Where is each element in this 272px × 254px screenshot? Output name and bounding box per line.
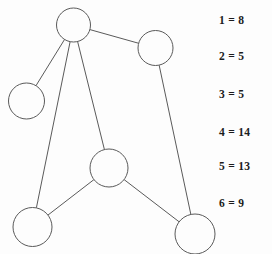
node-layer	[9, 8, 216, 254]
graph-edge-n4-n5	[48, 180, 94, 215]
graph-node-n3[interactable]	[138, 31, 173, 66]
graph-edge-n1-n5	[36, 42, 70, 208]
graph-edge-n3-n6	[159, 65, 191, 214]
legend-row-5: 5 = 13	[219, 160, 250, 172]
graph-edge-n1-n3	[90, 30, 139, 44]
legend-row-2: 2 = 5	[219, 50, 244, 62]
legend-row-4: 4 = 14	[219, 126, 250, 138]
graph-node-n4[interactable]	[90, 149, 128, 187]
graph-node-n1[interactable]	[57, 8, 91, 42]
graph-edge-n1-n4	[78, 42, 105, 150]
figure-canvas: 1 = 82 = 53 = 54 = 145 = 136 = 9	[0, 0, 272, 254]
legend-list: 1 = 82 = 53 = 54 = 145 = 136 = 9	[216, 0, 272, 254]
graph-edge-n1-n2	[36, 39, 65, 85]
graph-node-n2[interactable]	[9, 83, 45, 119]
graph-node-n6[interactable]	[175, 214, 215, 254]
graph-edge-n4-n6	[124, 180, 179, 222]
graph-node-n5[interactable]	[13, 208, 52, 247]
legend-row-6: 6 = 9	[219, 197, 244, 209]
legend-row-1: 1 = 8	[219, 14, 244, 26]
legend-row-3: 3 = 5	[219, 88, 244, 100]
